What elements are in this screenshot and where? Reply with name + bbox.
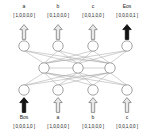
output-layer-nodes xyxy=(19,41,132,51)
output-vector-4: [ 0,0,0,0,1 ] xyxy=(105,13,149,18)
input-token-3: b xyxy=(78,115,108,120)
input-layer-nodes xyxy=(19,85,132,95)
neural-network-figure: a b c Eos [ 1,0,0,0,0 ] [ 0,1,0,0,0 ] [ … xyxy=(0,0,154,136)
input-node-4 xyxy=(122,85,132,95)
input-node-3 xyxy=(88,85,98,95)
hidden-node-1 xyxy=(39,63,49,73)
edges-hidden-to-output xyxy=(24,51,127,64)
output-arrow-2 xyxy=(54,25,62,40)
input-token-2: a xyxy=(43,115,73,120)
input-token-1: Bos xyxy=(9,115,39,120)
input-vector-4: [ 0,0,1,0,0 ] xyxy=(105,124,149,129)
input-arrow-3 xyxy=(89,98,97,113)
output-token-2: b xyxy=(43,4,73,9)
input-arrow-1 xyxy=(20,98,28,113)
hidden-node-3 xyxy=(105,63,115,73)
output-node-3 xyxy=(88,41,98,51)
output-node-4 xyxy=(122,41,132,51)
output-arrow-4 xyxy=(123,25,131,40)
edges-input-to-hidden xyxy=(24,73,127,86)
output-token-4: Eos xyxy=(112,4,142,9)
input-node-1 xyxy=(19,85,29,95)
output-node-1 xyxy=(19,41,29,51)
output-token-1: a xyxy=(9,4,39,9)
output-arrow-1 xyxy=(20,25,28,40)
output-arrow-3 xyxy=(89,25,97,40)
output-node-2 xyxy=(53,41,63,51)
hidden-node-2 xyxy=(73,63,83,73)
input-arrow-2 xyxy=(54,98,62,113)
input-token-4: c xyxy=(112,115,142,120)
input-node-2 xyxy=(53,85,63,95)
input-arrow-4 xyxy=(123,98,131,113)
output-token-3: c xyxy=(78,4,108,9)
